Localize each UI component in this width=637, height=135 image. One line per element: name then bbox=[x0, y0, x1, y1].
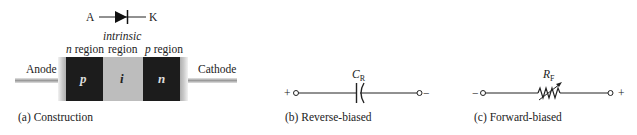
resistor-label: RF bbox=[543, 68, 554, 85]
forward-caption: (c) Forward-biased bbox=[474, 111, 562, 123]
